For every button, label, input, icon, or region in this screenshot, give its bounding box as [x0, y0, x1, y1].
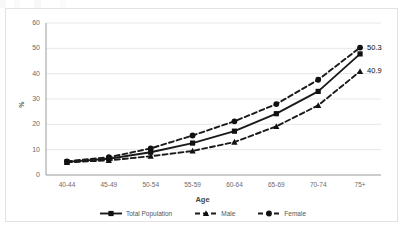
y-axis-tick-label: 20 [20, 120, 40, 128]
data-point-label: 50.3 [367, 43, 382, 52]
chart-frame: % Age 0102030405060 40-4445-4950-5455-59… [5, 8, 398, 222]
legend-marker-circle-icon [257, 209, 281, 218]
scan-noise-artifact [0, 0, 403, 8]
legend-label: Female [284, 210, 306, 217]
data-point-label: 40.9 [367, 66, 382, 75]
legend-item-female[interactable]: Female [257, 209, 306, 218]
x-axis-tick-label: 45-49 [89, 181, 129, 189]
y-axis-tick-label: 30 [20, 95, 40, 103]
chart-legend: Total PopulationMaleFemale [6, 209, 399, 218]
legend-label: Total Population [126, 210, 172, 217]
y-axis-tick-label: 0 [20, 171, 40, 179]
legend-item-total-population[interactable]: Total Population [99, 209, 172, 218]
legend-item-male[interactable]: Male [194, 209, 235, 218]
y-axis-tick-label: 10 [20, 146, 40, 154]
y-axis-tick-label: 40 [20, 70, 40, 78]
y-axis-tick-label: 60 [20, 19, 40, 27]
x-axis-tick-label: 40-44 [47, 181, 87, 189]
x-axis-tick-label: 50-54 [131, 181, 171, 189]
x-axis-tick-label: 70-74 [298, 181, 338, 189]
legend-label: Male [221, 210, 235, 217]
x-axis-title: Age [6, 195, 399, 204]
legend-marker-triangle-icon [194, 209, 218, 218]
legend-marker-square-icon [99, 209, 123, 218]
line-chart-svg [6, 9, 399, 223]
x-axis-tick-label: 65-69 [256, 181, 296, 189]
x-axis-tick-label: 55-59 [173, 181, 213, 189]
x-axis-tick-label: 75+ [340, 181, 380, 189]
x-axis-tick-label: 60-64 [214, 181, 254, 189]
y-axis-tick-label: 50 [20, 44, 40, 52]
plot-area: % Age 0102030405060 40-4445-4950-5455-59… [6, 9, 399, 223]
